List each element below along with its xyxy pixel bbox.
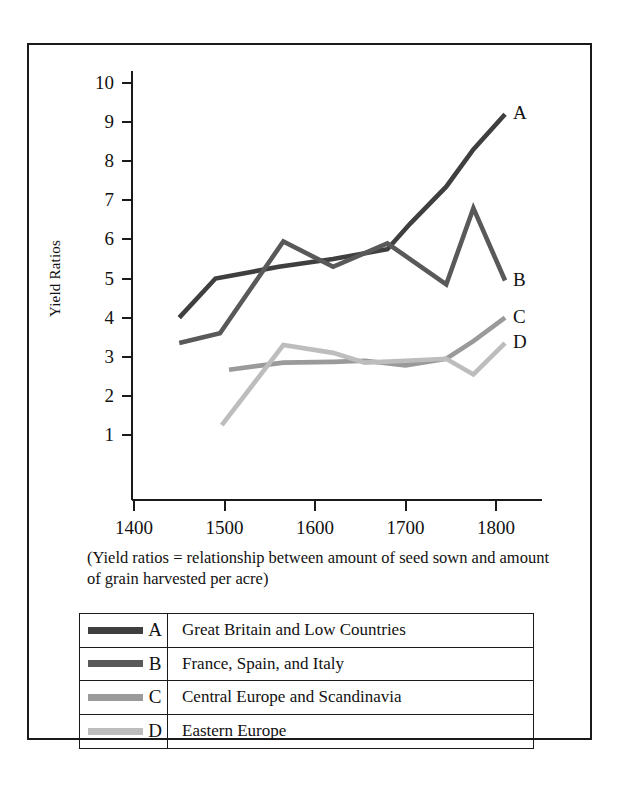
series-paths xyxy=(179,114,505,425)
y-tick-label-2: 2 xyxy=(80,386,114,405)
legend-description-A: Great Britain and Low Countries xyxy=(168,620,406,640)
y-tick-label-6: 6 xyxy=(80,229,114,248)
plot-region: Yield Ratios 123456789101400150016001700… xyxy=(29,45,594,525)
y-tick-label-4: 4 xyxy=(80,308,114,327)
y-tick-label-7: 7 xyxy=(80,190,114,209)
legend-box: AGreat Britain and Low CountriesBFrance,… xyxy=(79,613,534,749)
axis-lines xyxy=(132,71,542,500)
x-tick-label-1500: 1500 xyxy=(190,518,260,537)
y-tick-label-5: 5 xyxy=(80,269,114,288)
series-end-label-C: C xyxy=(513,307,526,326)
legend-letter-B: B xyxy=(145,653,165,675)
y-tick-label-10: 10 xyxy=(80,73,114,92)
legend-row-C: CCentral Europe and Scandinavia xyxy=(80,681,533,715)
y-tick-label-9: 9 xyxy=(80,112,114,131)
legend-description-C: Central Europe and Scandinavia xyxy=(168,687,402,707)
x-tick-label-1400: 1400 xyxy=(99,518,169,537)
legend-row-D: DEastern Europe xyxy=(80,715,533,749)
legend-swatch-icon-D xyxy=(88,728,143,735)
legend-swatch-icon-A xyxy=(88,627,143,634)
legend-swatch-icon-C xyxy=(88,694,143,701)
figure-frame: Yield Ratios 123456789101400150016001700… xyxy=(27,43,592,740)
legend-key-B: B xyxy=(80,648,168,681)
legend-key-D: D xyxy=(80,715,168,749)
x-tick-label-1700: 1700 xyxy=(371,518,441,537)
tick-marks xyxy=(122,83,496,511)
legend-key-C: C xyxy=(80,681,168,714)
legend-letter-A: A xyxy=(145,619,165,641)
series-line-D xyxy=(222,343,505,425)
legend-row-B: BFrance, Spain, and Italy xyxy=(80,648,533,682)
series-end-label-A: A xyxy=(513,103,527,122)
legend-description-D: Eastern Europe xyxy=(168,721,286,741)
legend-letter-D: D xyxy=(145,720,165,742)
legend-description-B: France, Spain, and Italy xyxy=(168,654,344,674)
x-tick-label-1800: 1800 xyxy=(461,518,531,537)
y-tick-label-8: 8 xyxy=(80,151,114,170)
series-line-A xyxy=(179,114,505,317)
series-end-label-B: B xyxy=(513,270,526,289)
series-end-label-D: D xyxy=(513,332,527,351)
y-tick-label-1: 1 xyxy=(80,425,114,444)
x-tick-label-1600: 1600 xyxy=(280,518,350,537)
figure-caption: (Yield ratios = relationship between amo… xyxy=(87,547,557,590)
y-tick-label-3: 3 xyxy=(80,347,114,366)
legend-swatch-icon-B xyxy=(88,660,143,667)
legend-key-A: A xyxy=(80,614,168,647)
legend-letter-C: C xyxy=(145,686,165,708)
legend-row-A: AGreat Britain and Low Countries xyxy=(80,614,533,648)
